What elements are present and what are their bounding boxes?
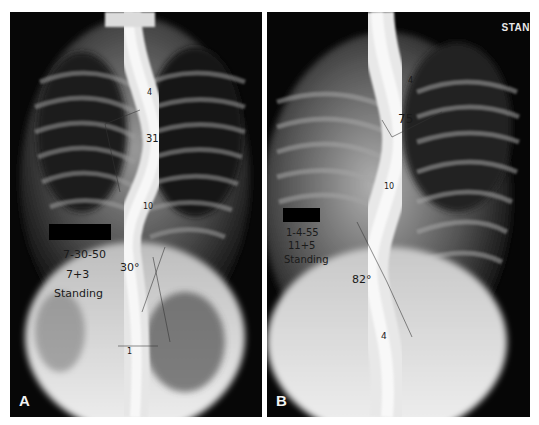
age-annotation-a: 7+3 — [66, 269, 89, 280]
corner-marker: STAN — [502, 22, 530, 33]
vertebra-mark-10-b: 10 — [384, 183, 394, 191]
vertebra-mark-4-b-upper: 4 — [408, 77, 413, 85]
vertebra-mark-4-a: 4 — [147, 89, 152, 97]
upper-curve-angle-a: 31° — [146, 134, 164, 144]
vertebra-mark-1-a: 1 — [127, 348, 132, 356]
date-annotation-b: 1-4-55 — [286, 228, 319, 238]
redaction-bar-b — [283, 208, 320, 222]
xray-image-a — [10, 12, 262, 417]
xray-panel-b: STAN 1-4-55 11+5 Standing 82° 75 4 10 4 … — [267, 12, 530, 417]
panel-label-b: B — [276, 392, 287, 409]
position-annotation-a: Standing — [54, 288, 103, 299]
panel-label-a: A — [19, 392, 30, 409]
date-annotation-a: 7-30-50 — [63, 249, 106, 260]
xray-panel-a: 7-30-50 7+3 Standing 30° 31° 4 10 1 A — [10, 12, 262, 417]
vertebra-mark-4-b-lower: 4 — [381, 332, 387, 341]
vertebra-mark-10-a: 10 — [143, 203, 153, 211]
age-annotation-b: 11+5 — [288, 241, 315, 251]
lower-curve-angle-b: 82° — [352, 274, 372, 285]
upper-curve-angle-b: 75 — [398, 113, 413, 125]
lower-curve-angle-a: 30° — [120, 262, 140, 273]
position-annotation-b: Standing — [284, 255, 329, 265]
redaction-bar-a — [49, 224, 111, 240]
